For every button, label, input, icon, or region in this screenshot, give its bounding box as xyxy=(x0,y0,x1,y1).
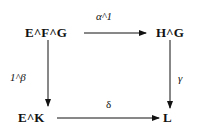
label-beta: 1^β xyxy=(10,71,26,83)
node-bottom-left: E^K xyxy=(18,112,44,124)
node-top-right: H^G xyxy=(156,27,184,39)
node-top-left: E^F^G xyxy=(25,27,67,39)
label-delta: δ xyxy=(106,98,111,110)
node-bottom-right: L xyxy=(163,112,172,124)
label-alpha: α^1 xyxy=(96,10,112,22)
label-gamma: γ xyxy=(178,72,182,84)
